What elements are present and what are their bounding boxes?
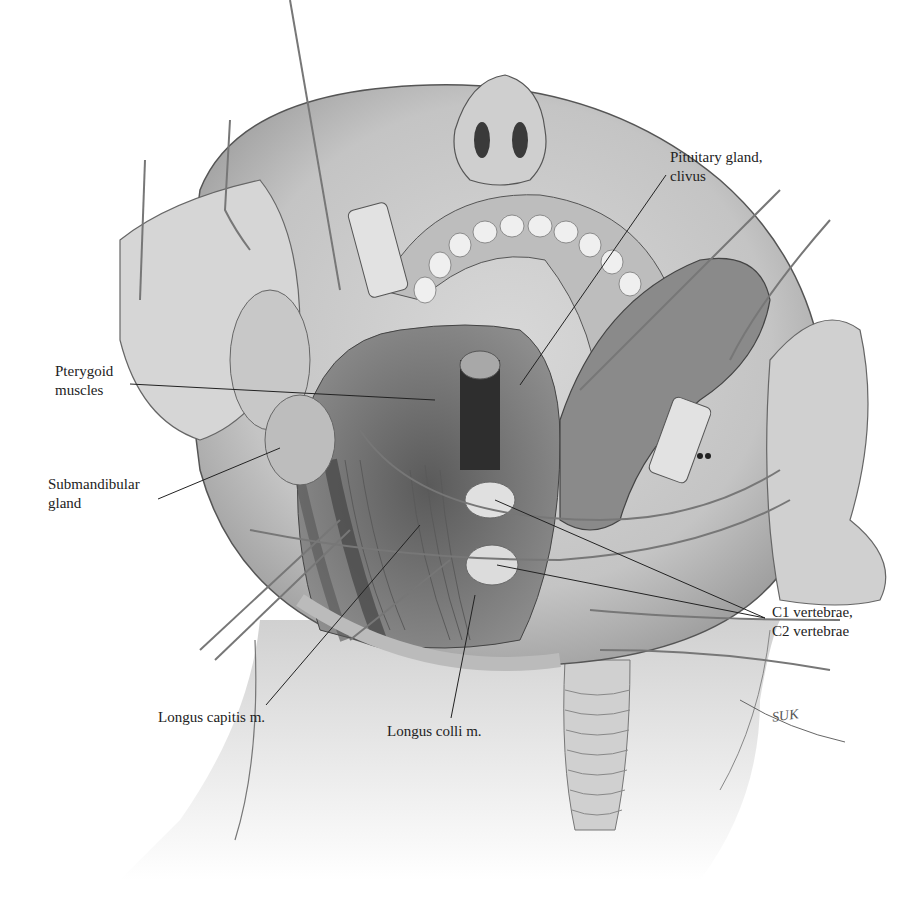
label-line: clivus <box>670 167 763 186</box>
label-line: C2 vertebrae <box>772 622 853 641</box>
label-line: gland <box>48 494 140 513</box>
label-c1-c2-vertebrae: C1 vertebrae, C2 vertebrae <box>772 603 853 641</box>
label-line: C1 vertebrae, <box>772 603 853 622</box>
label-submandibular-gland: Submandibular gland <box>48 475 140 513</box>
label-longus-colli: Longus colli m. <box>387 722 482 741</box>
trachea <box>564 660 630 830</box>
label-line: Submandibular <box>48 475 140 494</box>
label-pituitary-gland: Pituitary gland, clivus <box>670 148 763 186</box>
label-pterygoid-muscles: Pterygoid muscles <box>55 362 113 400</box>
label-longus-capitis: Longus capitis m. <box>158 708 265 727</box>
label-line: muscles <box>55 381 113 400</box>
label-line: Pterygoid <box>55 362 113 381</box>
label-line: Pituitary gland, <box>670 148 763 167</box>
label-line: Longus colli m. <box>387 722 482 741</box>
label-line: Longus capitis m. <box>158 708 265 727</box>
anatomical-illustration <box>0 0 915 905</box>
surgical-cavity <box>298 325 561 648</box>
